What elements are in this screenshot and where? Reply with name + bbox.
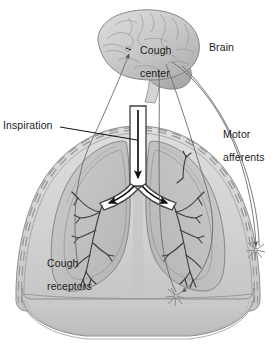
label-cough-center: Cough center [128, 33, 172, 91]
label-motor-afferents-line2: afferents [223, 151, 265, 163]
label-motor-afferents: Motor afferents [211, 117, 265, 175]
label-motor-afferents-line1: Motor [223, 128, 250, 140]
cough-reflex-diagram: Brain Cough center Inspiration Motor aff… [0, 0, 277, 352]
label-cough-receptors: Cough receptors [35, 246, 92, 304]
label-brain: Brain [209, 42, 234, 54]
label-cough-center-line1: Cough [140, 44, 171, 56]
label-inspiration: Inspiration [3, 120, 53, 132]
label-cough-receptors-line1: Cough [47, 257, 78, 269]
label-cough-center-line2: center [140, 67, 170, 79]
label-cough-receptors-line2: receptors [47, 280, 92, 292]
